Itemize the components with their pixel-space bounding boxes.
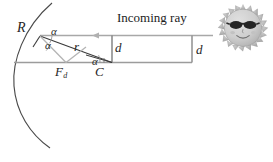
ray-R-to-Fd [40, 36, 66, 63]
sun-right-cheek [251, 31, 256, 34]
sun-left-cheek [230, 31, 235, 34]
sun-with-sunglasses-icon [218, 4, 268, 52]
optics-reflector-diagram: Incoming ray R r Fd C d d α α α [0, 0, 273, 162]
label-angle-alpha-3: α [92, 56, 98, 67]
focus-subscript-letter: d [63, 71, 67, 80]
label-angle-alpha-2: α [45, 40, 51, 51]
label-offset-left-d: d [115, 41, 122, 54]
label-angle-alpha-1: α [51, 26, 57, 37]
ray-R-lower-arm [33, 36, 40, 47]
sun-disc [224, 9, 261, 46]
label-radius-vertex-R: R [17, 21, 26, 35]
focus-base-letter: F [55, 64, 63, 79]
sunglasses-right-temple [256, 23, 259, 24]
sunglasses-right-lens [244, 21, 257, 29]
label-offset-right-d: d [196, 43, 203, 56]
incoming-ray-label: Incoming ray [117, 11, 187, 24]
label-focus-point-Fd: Fd [55, 65, 67, 80]
sunglasses-left-lens [230, 21, 243, 29]
left-arrowhead-icon [92, 33, 99, 39]
sunglasses-left-temple [226, 23, 229, 24]
label-ray-distance-r: r [74, 40, 79, 53]
